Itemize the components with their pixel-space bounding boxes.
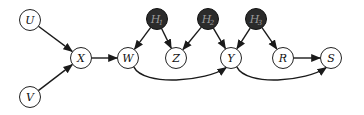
edge-h3-to-y: [237, 28, 250, 49]
node-label: Z: [171, 52, 180, 65]
node-label: U: [25, 14, 35, 27]
node-label: R: [278, 52, 287, 65]
node-label: X: [76, 52, 86, 65]
node-z: Z: [166, 48, 187, 69]
edge-h3-to-r: [262, 28, 277, 49]
node-label: W: [122, 52, 135, 65]
node-label: V: [26, 91, 35, 104]
node-x: X: [71, 48, 92, 69]
edge-h1-to-z: [162, 28, 172, 48]
hidden-node-h3: H3: [246, 9, 267, 30]
hidden-node-h1: H1: [147, 9, 168, 30]
node-v: V: [20, 87, 41, 108]
edge-h2-to-y: [213, 28, 225, 48]
node-subscript: 2: [209, 19, 215, 27]
edge-w-to-y: [134, 67, 227, 80]
node-r: R: [273, 48, 294, 69]
hidden-node-h2: H2: [198, 9, 219, 30]
node-label: S: [327, 52, 335, 65]
node-y: Y: [221, 48, 242, 69]
edge-u-to-x: [38, 26, 72, 51]
causal-diagram: UVXWZYRSH1H2H3: [0, 0, 364, 115]
edge-v-to-x: [38, 65, 72, 91]
node-w: W: [118, 48, 139, 69]
nodes-layer: UVXWZYRSH1H2H3: [20, 9, 342, 108]
dag-svg: UVXWZYRSH1H2H3: [0, 0, 364, 115]
node-u: U: [20, 10, 41, 31]
node-subscript: 1: [159, 19, 163, 27]
edge-h2-to-z: [183, 27, 201, 49]
node-subscript: 3: [258, 19, 263, 27]
node-s: S: [321, 48, 342, 69]
edge-h1-to-w: [135, 27, 151, 49]
